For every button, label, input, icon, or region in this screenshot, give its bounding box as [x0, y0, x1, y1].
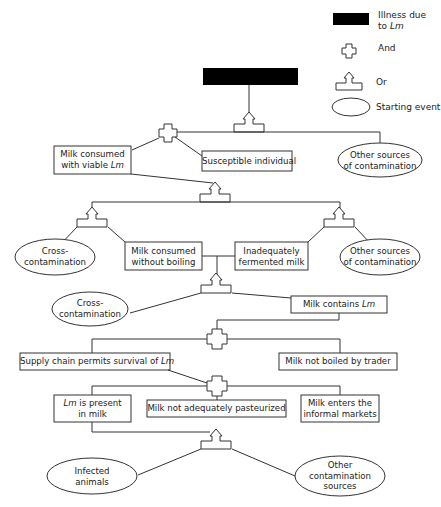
top-event-illness: [203, 68, 298, 85]
or-gate-4-icon: [324, 207, 354, 227]
legend-and-label: And: [378, 43, 396, 54]
or-gate-5-icon: [201, 273, 231, 293]
node-other-contamination-sources: Othercontaminationsources: [295, 460, 385, 492]
node-milk-contains-lm: Milk contains Lm: [291, 299, 387, 310]
node-other-sources-1: Other sourcesof contamination: [338, 150, 422, 171]
and-gate-3-icon: [207, 376, 227, 396]
or-gate-2-icon: [200, 182, 230, 202]
node-cross-contamination-2: Cross-contamination: [52, 298, 128, 319]
legend-starting-event-label: Starting event: [376, 102, 440, 113]
or-gate-1-icon: [234, 112, 264, 132]
node-not-pasteurized: Milk not adequately pasteurized: [147, 403, 286, 414]
node-infected-animals: Infectedanimals: [47, 466, 137, 487]
or-gate-3-icon: [77, 207, 107, 227]
node-susceptible-individual: Susceptible individual: [202, 156, 292, 167]
node-other-sources-2: Other sourcesof contamination: [340, 246, 420, 267]
legend-starting-event-icon: [332, 98, 370, 116]
node-informal-markets: Milk enters theinformal markets: [301, 398, 379, 419]
legend-illness-label: Illness due to Lm: [378, 10, 426, 32]
node-milk-without-boiling: Milk consumedwithout boiling: [125, 246, 202, 267]
legend-illness-symbol: [333, 13, 369, 25]
node-cross-contamination-1: Cross-contamination: [15, 246, 95, 267]
legend-and-gate-icon: [342, 44, 356, 58]
node-supply-chain: Supply chain permits survival of Lm: [20, 356, 170, 367]
node-lm-present: Lm is present in milk: [54, 398, 131, 419]
legend-or-gate-icon: [336, 72, 362, 90]
and-gate-2-icon: [207, 329, 227, 349]
node-not-boiled-by-trader: Milk not boiled by trader: [279, 356, 397, 367]
and-gate-1-icon: [159, 124, 177, 142]
node-milk-consumed-viable-lm: Milk consumed with viable Lm: [54, 149, 131, 170]
legend-or-label: Or: [376, 77, 387, 88]
node-inadequately-fermented: Inadequatelyfermented milk: [235, 246, 308, 267]
